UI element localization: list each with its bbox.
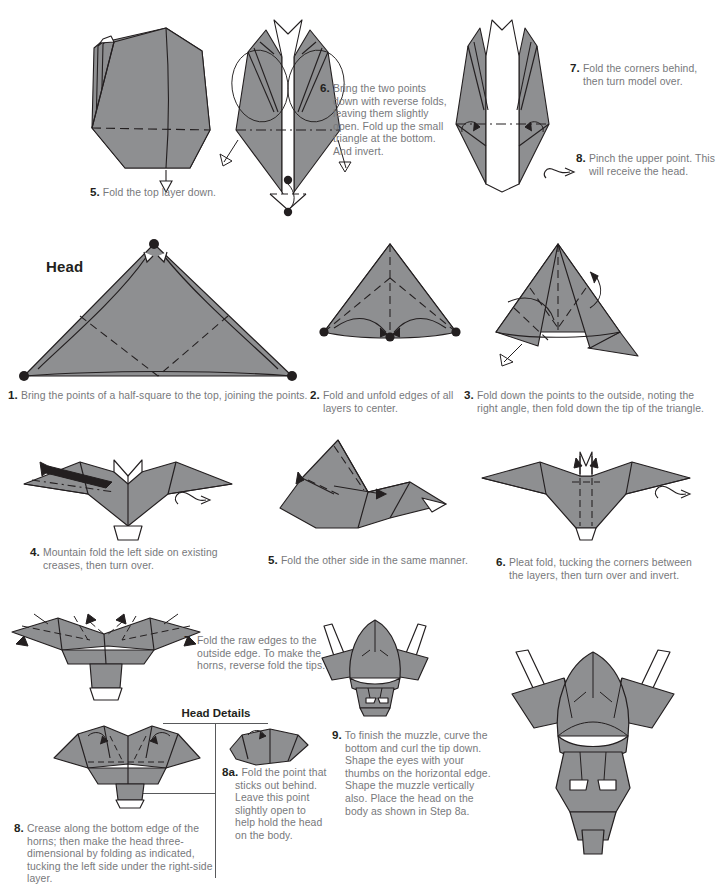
head-step-1-number: 1. [8, 388, 18, 401]
head-step-2-text: Fold and unfold edges of all layers to c… [323, 390, 453, 414]
head-step-8a-caption: 8a. Fold the point that sticks out behin… [222, 766, 327, 843]
head-step-2-figure [316, 236, 466, 376]
head-step-4-caption: 4. Mountain fold the left side on existi… [30, 546, 243, 572]
finished-bison-head-figure [508, 640, 678, 860]
turn-over-invert-arrow [656, 486, 690, 498]
turn-over-arrow [176, 492, 210, 504]
head-step-5-number: 5. [268, 553, 278, 566]
head-step-2-number: 2. [310, 388, 320, 401]
head-step-9-caption: 9. To finish the muzzle, curve the botto… [332, 729, 493, 818]
head-step-5-text: Fold the other side in the same manner. [281, 555, 468, 566]
head-step-6-number: 6. [496, 555, 506, 568]
head-step-5-caption: 5. Fold the other side in the same manne… [268, 554, 481, 568]
head-step-3-caption: 3. Fold down the points to the outside, … [464, 389, 717, 415]
head-step-3-text: Fold down the points to the outside, not… [477, 390, 704, 414]
body-step-5-figure [70, 18, 235, 193]
head-step-8a-number: 8a. [222, 765, 238, 778]
body-step-6-text: Bring the two points down with reverse f… [333, 83, 447, 157]
head-step-5-figure [272, 432, 452, 542]
head-step-2-caption: 2. Fold and unfold edges of all layers t… [310, 389, 463, 415]
head-step-1-text: Bring the points of a half-square to the… [21, 390, 308, 401]
head-step-3-figure [478, 236, 648, 381]
head-step-8-number: 8. [14, 821, 24, 834]
head-step-8a-text: Fold the point that sticks out behind. L… [235, 767, 327, 841]
body-step-5-number: 5. [90, 185, 100, 198]
head-step-8a-figure [226, 727, 312, 769]
head-step-9-number: 9. [332, 728, 342, 741]
body-step-8-text: Pinch the upper point. This will receive… [589, 153, 715, 177]
body-step-5-text: Fold the top layer down. [103, 187, 216, 198]
head-step-9-text: To finish the muzzle, curve the bottom a… [345, 730, 491, 817]
head-step-6-figure [476, 436, 696, 541]
body-step-8-number: 8. [576, 151, 586, 164]
body-step-8-figure [540, 160, 580, 186]
head-step-7-figure [4, 596, 214, 706]
head-step-6-text: Pleat fold, tucking the corners between … [509, 557, 692, 581]
body-step-7-text: Fold the corners behind, then turn model… [583, 63, 697, 87]
body-step-8-caption: 8. Pinch the upper point. This will rece… [576, 152, 715, 178]
head-step-4-figure [18, 432, 238, 542]
head-step-1-caption: 1. Bring the points of a half-square to … [8, 389, 321, 403]
head-step-8-figure [48, 714, 208, 810]
body-step-6-number: 6. [320, 81, 330, 94]
head-step-7-text: Fold the raw edges to the outside edge. … [197, 635, 325, 671]
body-step-7-number: 7. [570, 61, 580, 74]
head-step-9-figure [310, 612, 440, 717]
half-square-triangle [24, 244, 292, 376]
body-step-7-caption: 7. Fold the corners behind, then turn mo… [570, 62, 715, 88]
fold-direction-arrow [500, 344, 522, 366]
head-step-7-number: 7. [184, 633, 194, 646]
head-step-8-caption: 8. Crease along the bottom edge of the h… [14, 822, 225, 886]
head-step-3-number: 3. [464, 388, 474, 401]
head-step-1-figure [14, 232, 304, 387]
head-step-4-text: Mountain fold the left side on existing … [43, 547, 218, 571]
head-step-4-number: 4. [30, 545, 40, 558]
head-step-6-caption: 6. Pleat fold, tucking the corners betwe… [496, 556, 709, 582]
head-step-8-text: Crease along the bottom edge of the horn… [27, 823, 213, 884]
body-step-6-caption: 6. Bring the two points down with revers… [320, 82, 451, 159]
pinch-arrow-icon [544, 168, 574, 178]
